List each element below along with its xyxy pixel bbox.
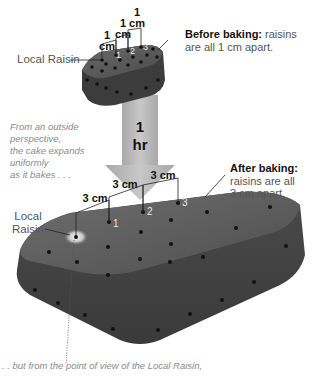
local-raisin-label-line-2: Raisin	[10, 223, 46, 236]
before-baking-text-1: raisins	[265, 28, 297, 40]
arrow-label: 1 hr	[122, 118, 158, 154]
small-raisin-number-1: 1	[116, 50, 121, 60]
big-raisin-number-1: 1	[113, 218, 119, 229]
local-note-line-1: . . but from the point of view of the Lo…	[2, 360, 302, 372]
before-baking-caption: Before baking: raisins are all 1 cm apar…	[185, 28, 310, 53]
after-baking-heading: After baking:	[230, 162, 298, 174]
before-baking-heading: Before baking:	[185, 28, 262, 40]
after-baking-caption: After baking: raisins are all 3 cm apart…	[230, 162, 314, 200]
local-perspective-note: . . but from the point of view of the Lo…	[2, 360, 302, 372]
outside-note-line-2: the cake expands uniformly	[10, 145, 125, 169]
before-baking-text-2: are all 1 cm apart.	[185, 41, 273, 53]
after-baking-text-1: raisins are all	[230, 175, 295, 187]
local-raisin-label-before: Local Raisin	[17, 53, 80, 65]
outside-perspective-note: From an outside perspective, the cake ex…	[10, 121, 125, 181]
big-spacing-label-1: 3 cm	[80, 193, 110, 204]
outside-note-line-1: From an outside perspective,	[10, 121, 125, 145]
big-raisin-number-2: 2	[147, 206, 153, 217]
local-raisin-label-line-1: Local	[10, 210, 46, 223]
big-cake	[17, 175, 305, 365]
arrow-label-unit: hr	[122, 136, 158, 154]
outside-note-line-3: as it bakes . . .	[10, 169, 125, 181]
after-baking-text-2: 3 cm apart.	[230, 187, 285, 199]
small-raisin-number-3: 3	[143, 42, 148, 52]
small-spacing-unit-3: cm	[125, 18, 149, 29]
local-raisin-label-after: Local Raisin	[10, 210, 46, 236]
arrow-label-number: 1	[122, 118, 158, 136]
big-spacing-label-3: 3 cm	[148, 170, 178, 181]
big-spacing-label-2: 3 cm	[110, 179, 140, 190]
small-spacing-label-3: 1 cm	[125, 7, 149, 29]
big-raisin-number-3: 3	[182, 197, 188, 208]
small-spacing-unit-2: cm	[111, 29, 135, 40]
small-raisin-number-2: 2	[130, 46, 135, 56]
